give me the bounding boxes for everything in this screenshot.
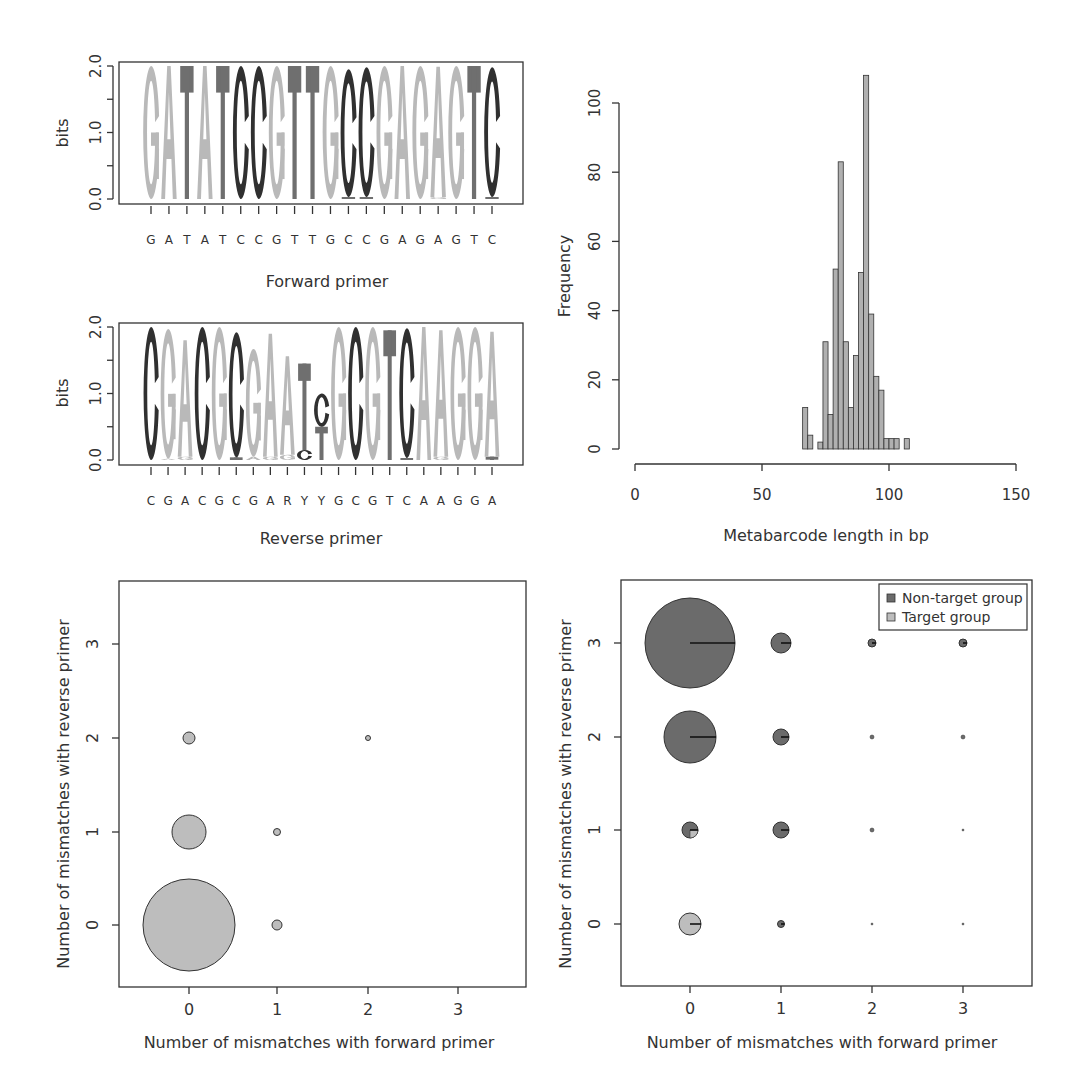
- bubble-point: [143, 879, 235, 971]
- y-tick-label: 3: [83, 639, 102, 649]
- logo-letter-G: [281, 133, 284, 180]
- sequence-letter: T: [218, 233, 227, 247]
- bubble-point: [183, 732, 195, 744]
- y-tick-label: 0: [83, 920, 102, 930]
- histogram-bar: [853, 356, 858, 449]
- logo-letter-A: [161, 66, 176, 199]
- x-tick-label: 2: [867, 999, 877, 1018]
- histogram-bar: [884, 439, 889, 449]
- sequence-letter: C: [237, 233, 245, 247]
- logo-letter-A: [485, 332, 500, 457]
- sequence-letter: R: [283, 494, 291, 508]
- logo-letter-C: [314, 394, 329, 427]
- sequence-letter: G: [416, 233, 425, 247]
- logo-letter-A: [263, 334, 278, 457]
- histogram-bar: [859, 273, 864, 449]
- sequence-letter: A: [266, 494, 275, 508]
- logo-letter-G: [224, 394, 227, 441]
- sequence-letter: G: [146, 233, 155, 247]
- bubble-point: [274, 829, 281, 836]
- x-tick-label: 100: [875, 486, 904, 504]
- logo-letter-T: [319, 427, 323, 460]
- histogram-ylabel: Frequency: [555, 235, 574, 318]
- group-mismatch-pie-plot: 01230123: [585, 580, 1032, 1018]
- histogram-bar: [879, 390, 884, 449]
- histogram-bar: [904, 439, 909, 449]
- logo-letter-G: [343, 394, 346, 441]
- logo-letter-C: [229, 332, 244, 457]
- legend-swatch-target: [887, 613, 895, 621]
- sequence-letter: T: [385, 494, 394, 508]
- logo-letter-A: [280, 356, 295, 454]
- sequence-letter: C: [344, 233, 352, 247]
- bubble1-xlabel: Number of mismatches with forward primer: [144, 1033, 495, 1052]
- forward-primer-xlabel: Forward primer: [266, 272, 389, 291]
- histogram-bar: [864, 75, 869, 449]
- logo-letter-C: [251, 66, 267, 199]
- bubble-point: [870, 735, 874, 739]
- logo-letter-G: [480, 394, 483, 441]
- sequence-letter: A: [420, 494, 429, 508]
- histogram-bar: [843, 342, 848, 449]
- logo-letter-T: [346, 197, 350, 199]
- bubble-point: [962, 829, 964, 831]
- sequence-letter: C: [488, 233, 496, 247]
- sequence-letter: A: [398, 233, 407, 247]
- forward-logo-ylabel: bits: [53, 118, 72, 147]
- reverse-primer-logo: 0.01.02.0CGACGCGARYYGCGTCAAGGA: [87, 315, 523, 508]
- logo-letter-G: [443, 198, 446, 199]
- y-tick-label: 20: [586, 370, 604, 389]
- histogram-bar: [848, 407, 853, 449]
- logo-letter-A: [178, 340, 193, 456]
- histogram-bar: [869, 314, 874, 449]
- sequence-letter: T: [290, 233, 299, 247]
- logo-letter-G: [461, 133, 464, 180]
- logo-letter-C: [297, 450, 312, 460]
- x-tick-label: 2: [363, 1000, 373, 1019]
- y-tick-label: 1: [83, 827, 102, 837]
- sequence-letter: C: [147, 494, 155, 508]
- figure: 0.01.02.0GATATCCGTTGCCGAGAGTC Forward pr…: [0, 0, 1089, 1092]
- sequence-letter: G: [453, 494, 462, 508]
- y-tick-label: 80: [586, 163, 604, 182]
- logo-letter-G: [275, 458, 278, 459]
- logo-letter-T: [490, 457, 494, 460]
- histogram-bar: [874, 376, 879, 449]
- reverse-primer-xlabel: Reverse primer: [260, 529, 383, 548]
- sequence-letter: G: [215, 494, 224, 508]
- sequence-letter: G: [368, 494, 377, 508]
- y-tick-label: 0.0: [87, 187, 105, 211]
- sequence-letter: A: [181, 494, 190, 508]
- sequence-letter: C: [232, 494, 240, 508]
- logo-letter-C: [195, 327, 210, 460]
- bubble-point: [962, 923, 964, 925]
- sequence-letter: G: [272, 233, 281, 247]
- sequence-letter: A: [201, 233, 210, 247]
- logo-letter-C: [233, 66, 249, 199]
- legend-label-non-target: Non-target group: [902, 590, 1023, 606]
- sequence-letter: Y: [317, 494, 326, 508]
- logo-letter-A: [197, 66, 212, 199]
- logo-letter-T: [364, 197, 368, 199]
- y-tick-label: 0: [585, 919, 604, 929]
- logo-letter-C: [484, 67, 500, 197]
- logo-letter-C: [399, 328, 414, 458]
- logo-letter-G: [445, 458, 448, 459]
- logo-letter-G: [389, 133, 392, 180]
- x-tick-label: 50: [752, 486, 771, 504]
- legend-label-target: Target group: [901, 609, 991, 625]
- sequence-letter: A: [488, 494, 497, 508]
- y-tick-label: 2: [585, 732, 604, 742]
- y-tick-label: 1: [585, 825, 604, 835]
- sequence-letter: T: [308, 233, 317, 247]
- y-tick-label: 3: [585, 638, 604, 648]
- sequence-letter: C: [362, 233, 370, 247]
- y-tick-label: 100: [586, 89, 604, 118]
- x-tick-label: 0: [184, 1000, 194, 1019]
- sequence-letter: G: [334, 494, 343, 508]
- y-tick-label: 2.0: [87, 315, 105, 339]
- logo-letter-A: [246, 457, 261, 460]
- logo-letter-C: [341, 69, 357, 197]
- forward-primer-logo: 0.01.02.0GATATCCGTTGCCGAGAGTC: [87, 54, 523, 247]
- sequence-letter: Y: [300, 494, 309, 508]
